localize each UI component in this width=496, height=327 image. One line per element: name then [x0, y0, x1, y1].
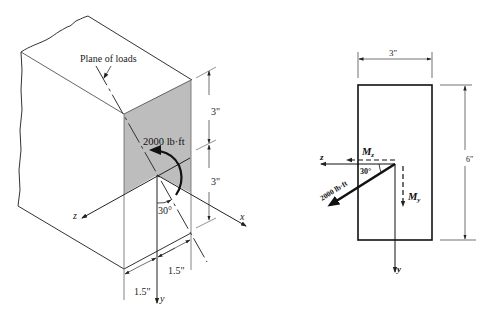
dim-ext-mid	[196, 140, 216, 150]
dim-ext-bottom	[196, 218, 216, 228]
my-label: My	[407, 191, 421, 204]
width-label: 3″	[389, 48, 398, 58]
dim-lower-label: 3"	[211, 176, 220, 187]
section-angle-label: 30°	[360, 167, 371, 176]
broken-top-edge	[21, 16, 88, 52]
x-axis-label: x	[239, 211, 245, 222]
section-z-label: z	[319, 152, 324, 162]
height-label: 6″	[466, 155, 473, 164]
diagram-canvas: Plane of loads z x y 2000 lb·ft 30° 3" 3…	[0, 0, 496, 327]
y-axis-label: y	[159, 293, 165, 304]
bottom-left-edge	[18, 206, 124, 269]
section-y-label: y	[396, 264, 402, 274]
my-label-main: M	[407, 191, 418, 202]
my-label-sub: y	[416, 196, 421, 204]
mz-label-main: M	[361, 146, 372, 157]
resultant-moment-label: 2000 lb·ft	[318, 179, 349, 203]
dim-ext-top	[196, 67, 216, 78]
dim-bottom-left-label: 1.5"	[134, 286, 151, 297]
dim-upper-label: 3"	[211, 106, 220, 117]
dim-bottom-right-label: 1.5"	[168, 265, 185, 276]
broken-left-edge	[18, 52, 22, 206]
cross-section-figure: 3″ 6″ z y Mz My 2000 lb·ft 30°	[318, 48, 476, 274]
moment-label: 2000 lb·ft	[143, 136, 185, 147]
plane-of-loads-label: Plane of loads	[80, 53, 137, 64]
mz-label-sub: z	[370, 151, 374, 159]
plane-label-leader	[104, 66, 111, 78]
z-axis-label: z	[72, 210, 77, 221]
angle-label: 30°	[158, 205, 172, 216]
section-angle-arc	[379, 164, 381, 172]
beam-isometric-figure: Plane of loads z x y 2000 lb·ft 30° 3" 3…	[18, 16, 246, 304]
mz-label: Mz	[361, 146, 374, 159]
angle-arc	[157, 200, 171, 203]
top-back-edge	[88, 16, 192, 80]
